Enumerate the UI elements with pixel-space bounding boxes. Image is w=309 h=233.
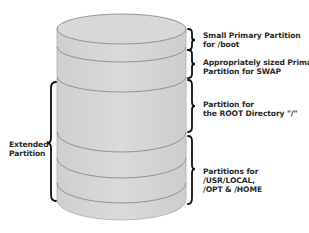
disk-cylinder [57,14,186,220]
label-line: Partition [9,149,45,158]
brace-swap-icon [188,50,195,78]
brace-root-icon [188,80,195,132]
label-line: Partitions for [203,167,262,176]
label-root-partition: Partition for the ROOT Directory "/" [203,100,297,118]
label-extended-partition: Extended Partition [9,140,45,158]
brace-usr-icon [188,136,195,204]
cylinder-top [57,14,186,44]
label-line: Partition for SWAP [203,67,309,76]
label-line: Partition for [203,100,297,109]
label-line: Appropriately sized Primary [203,58,309,67]
label-line: the ROOT Directory "/" [203,109,297,118]
label-line: Extended [9,140,45,149]
brace-boot-icon [188,29,195,50]
label-boot-partition: Small Primary Partition for /boot [203,31,301,49]
label-line: /USR/LOCAL, [203,176,262,185]
label-swap-partition: Appropriately sized Primary Partition fo… [203,58,309,76]
label-line: Small Primary Partition [203,31,301,40]
label-line: for /boot [203,40,301,49]
label-line: /OPT & /HOME [203,185,262,194]
label-usr-opt-home-partitions: Partitions for /USR/LOCAL, /OPT & /HOME [203,167,262,194]
right-braces [188,29,195,204]
